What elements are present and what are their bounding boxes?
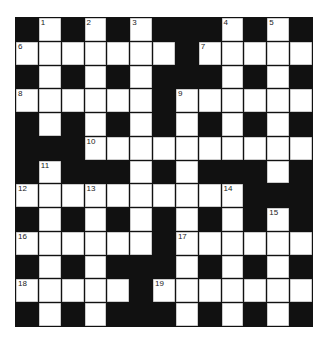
answer-cell[interactable] xyxy=(199,279,221,302)
answer-cell[interactable] xyxy=(130,113,152,136)
answer-cell[interactable]: 14 xyxy=(222,184,244,207)
answer-cell[interactable] xyxy=(39,113,61,136)
answer-cell[interactable] xyxy=(176,303,198,326)
answer-cell[interactable] xyxy=(85,256,107,279)
answer-cell[interactable]: 16 xyxy=(16,232,38,255)
answer-cell[interactable] xyxy=(39,42,61,65)
answer-cell[interactable] xyxy=(39,89,61,112)
answer-cell[interactable] xyxy=(222,42,244,65)
answer-cell[interactable] xyxy=(130,42,152,65)
answer-cell[interactable]: 7 xyxy=(199,42,221,65)
answer-cell[interactable]: 3 xyxy=(130,18,152,41)
answer-cell[interactable] xyxy=(267,42,289,65)
answer-cell[interactable]: 2 xyxy=(85,18,107,41)
answer-cell[interactable] xyxy=(39,232,61,255)
answer-cell[interactable] xyxy=(85,208,107,231)
answer-cell[interactable]: 9 xyxy=(176,89,198,112)
answer-cell[interactable] xyxy=(176,137,198,160)
answer-cell[interactable] xyxy=(130,161,152,184)
answer-cell[interactable] xyxy=(39,303,61,326)
answer-cell[interactable]: 15 xyxy=(267,208,289,231)
answer-cell[interactable] xyxy=(222,113,244,136)
answer-cell[interactable]: 13 xyxy=(85,184,107,207)
answer-cell[interactable] xyxy=(267,303,289,326)
answer-cell[interactable] xyxy=(39,256,61,279)
answer-cell[interactable]: 12 xyxy=(16,184,38,207)
answer-cell[interactable] xyxy=(222,232,244,255)
answer-cell[interactable] xyxy=(222,303,244,326)
answer-cell[interactable]: 5 xyxy=(267,18,289,41)
answer-cell[interactable] xyxy=(267,66,289,89)
answer-cell[interactable]: 10 xyxy=(85,137,107,160)
answer-cell[interactable] xyxy=(39,279,61,302)
answer-cell[interactable] xyxy=(290,137,312,160)
answer-cell[interactable] xyxy=(85,42,107,65)
answer-cell[interactable]: 18 xyxy=(16,279,38,302)
answer-cell[interactable] xyxy=(244,89,266,112)
answer-cell[interactable] xyxy=(199,232,221,255)
answer-cell[interactable] xyxy=(130,89,152,112)
answer-cell[interactable] xyxy=(130,66,152,89)
answer-cell[interactable] xyxy=(290,89,312,112)
answer-cell[interactable] xyxy=(267,256,289,279)
answer-cell[interactable] xyxy=(222,137,244,160)
answer-cell[interactable] xyxy=(222,256,244,279)
answer-cell[interactable] xyxy=(107,232,129,255)
answer-cell[interactable] xyxy=(290,232,312,255)
answer-cell[interactable]: 6 xyxy=(16,42,38,65)
answer-cell[interactable]: 19 xyxy=(153,279,175,302)
answer-cell[interactable] xyxy=(85,279,107,302)
answer-cell[interactable]: 8 xyxy=(16,89,38,112)
answer-cell[interactable] xyxy=(222,208,244,231)
answer-cell[interactable] xyxy=(244,137,266,160)
answer-cell[interactable] xyxy=(62,279,84,302)
answer-cell[interactable] xyxy=(267,232,289,255)
answer-cell[interactable] xyxy=(130,137,152,160)
answer-cell[interactable] xyxy=(199,184,221,207)
answer-cell[interactable] xyxy=(85,66,107,89)
answer-cell[interactable]: 17 xyxy=(176,232,198,255)
answer-cell[interactable] xyxy=(222,279,244,302)
answer-cell[interactable] xyxy=(107,89,129,112)
answer-cell[interactable] xyxy=(176,208,198,231)
answer-cell[interactable] xyxy=(176,113,198,136)
answer-cell[interactable] xyxy=(39,184,61,207)
answer-cell[interactable]: 1 xyxy=(39,18,61,41)
answer-cell[interactable]: 4 xyxy=(222,18,244,41)
answer-cell[interactable] xyxy=(267,113,289,136)
answer-cell[interactable] xyxy=(85,113,107,136)
answer-cell[interactable] xyxy=(222,89,244,112)
answer-cell[interactable] xyxy=(153,42,175,65)
answer-cell[interactable] xyxy=(176,161,198,184)
answer-cell[interactable] xyxy=(85,303,107,326)
answer-cell[interactable] xyxy=(39,208,61,231)
answer-cell[interactable] xyxy=(62,42,84,65)
answer-cell[interactable] xyxy=(130,208,152,231)
answer-cell[interactable] xyxy=(244,279,266,302)
answer-cell[interactable] xyxy=(62,89,84,112)
answer-cell[interactable] xyxy=(176,256,198,279)
answer-cell[interactable] xyxy=(267,89,289,112)
answer-cell[interactable] xyxy=(107,279,129,302)
answer-cell[interactable] xyxy=(39,66,61,89)
answer-cell[interactable] xyxy=(62,232,84,255)
answer-cell[interactable] xyxy=(62,184,84,207)
answer-cell[interactable] xyxy=(107,42,129,65)
answer-cell[interactable] xyxy=(290,42,312,65)
answer-cell[interactable] xyxy=(153,184,175,207)
answer-cell[interactable] xyxy=(107,184,129,207)
answer-cell[interactable] xyxy=(267,161,289,184)
answer-cell[interactable] xyxy=(267,279,289,302)
answer-cell[interactable] xyxy=(244,232,266,255)
answer-cell[interactable]: 11 xyxy=(39,161,61,184)
answer-cell[interactable] xyxy=(85,89,107,112)
answer-cell[interactable] xyxy=(130,184,152,207)
answer-cell[interactable] xyxy=(244,42,266,65)
answer-cell[interactable] xyxy=(267,137,289,160)
answer-cell[interactable] xyxy=(199,89,221,112)
answer-cell[interactable] xyxy=(85,232,107,255)
answer-cell[interactable] xyxy=(153,137,175,160)
answer-cell[interactable] xyxy=(107,137,129,160)
answer-cell[interactable] xyxy=(176,279,198,302)
answer-cell[interactable] xyxy=(176,184,198,207)
